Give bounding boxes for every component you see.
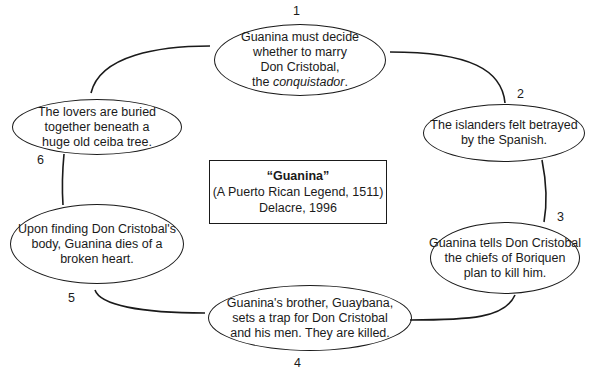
event-5-line-1: Upon finding Don Cristobal's	[18, 222, 176, 237]
event-number-5: 5	[68, 291, 75, 305]
event-number-1: 1	[293, 4, 300, 18]
connector-3-to-4	[410, 295, 515, 320]
event-3-line-1: Guanina tells Don Cristobal	[429, 236, 581, 251]
event-6-line-1: The lovers are buried	[38, 105, 156, 120]
event-number-6: 6	[37, 153, 44, 167]
connector-2-to-3	[542, 160, 546, 222]
connector-1-to-2	[390, 52, 505, 103]
event-1-line-2: whether to marry	[253, 45, 347, 60]
connector-6-to-1	[91, 46, 210, 93]
event-3-line-2: the chiefs of Boriquen	[445, 251, 566, 266]
event-number-2: 2	[517, 87, 524, 101]
event-ellipse-5: Upon finding Don Cristobal's body, Guani…	[10, 204, 184, 284]
event-1-line-1: Guanina must decide	[241, 30, 359, 45]
event-5-line-2: body, Guanina dies of a	[31, 237, 162, 252]
story-title-box: “Guanina” (A Puerto Rican Legend, 1511) …	[209, 160, 387, 224]
event-ellipse-3: Guanina tells Don Cristobal the chiefs o…	[430, 222, 580, 294]
event-3-line-3: plan to kill him.	[464, 266, 547, 281]
event-5-line-3: broken heart.	[60, 252, 134, 267]
event-ellipse-1: Guanina must decide whether to marry Don…	[214, 24, 386, 96]
event-6-line-2: together beneath a	[45, 120, 150, 135]
event-4-line-1: Guanina's brother, Guaybana,	[227, 296, 393, 311]
connector-5-to-6	[62, 154, 64, 205]
event-6-line-3: huge old ceiba tree.	[42, 135, 152, 150]
event-1-line-3: Don Cristobal,	[260, 60, 339, 75]
event-ellipse-4: Guanina's brother, Guaybana, sets a trap…	[208, 285, 412, 351]
event-ellipse-6: The lovers are buried together beneath a…	[12, 99, 182, 155]
event-1-line-4: the conquistador.	[252, 75, 348, 90]
connector-4-to-5	[95, 290, 205, 313]
event-4-line-2: sets a trap for Don Cristobal	[232, 311, 388, 326]
event-2-line-1: The islanders felt betrayed	[430, 118, 577, 133]
event-ellipse-2: The islanders felt betrayed by the Spani…	[423, 104, 585, 162]
story-author-year: Delacre, 1996	[259, 200, 337, 216]
story-title: “Guanina”	[267, 168, 330, 184]
event-number-3: 3	[557, 210, 564, 224]
event-number-4: 4	[294, 356, 301, 370]
story-subtitle: (A Puerto Rican Legend, 1511)	[213, 184, 384, 200]
conquistador-italic: conquistador	[273, 75, 345, 89]
event-2-line-2: by the Spanish.	[461, 133, 547, 148]
event-4-line-3: and his men. They are killed.	[230, 326, 390, 341]
